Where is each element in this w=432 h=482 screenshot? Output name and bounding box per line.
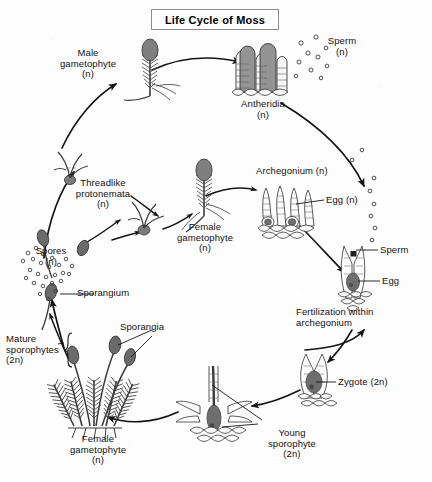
- label-zygote: Zygote (2n): [338, 377, 420, 388]
- label-spores: Spores (n): [24, 246, 78, 267]
- label-sperm-cloud: Sperm (n): [316, 36, 368, 57]
- label-male-gametophyte: Male gametophyte (n): [48, 48, 128, 80]
- label-archegonium: Archegonium (n): [256, 166, 366, 177]
- label-egg-n: Egg (n): [326, 195, 386, 206]
- label-egg: Egg: [382, 276, 426, 287]
- label-sperm: Sperm: [380, 245, 428, 256]
- label-female-gametophyte-center: Female gametophyte (n): [165, 222, 245, 254]
- label-antheridia: Antheridia (n): [228, 99, 298, 120]
- page-title: Life Cycle of Moss: [165, 14, 265, 26]
- label-young-sporophyte: Young sporophyte (2n): [256, 428, 328, 460]
- label-fertilization: Fertilization within archegonium: [296, 307, 412, 328]
- diagram-canvas: Life Cycle of Moss Male gametophyte (n) …: [0, 0, 432, 482]
- label-mature-sporophytes: Mature sporophytes (2n): [6, 334, 72, 366]
- label-sporangium: Sporangium: [77, 288, 151, 299]
- diagram-title-box: Life Cycle of Moss: [151, 9, 279, 30]
- label-sporangia: Sporangia: [120, 322, 184, 333]
- label-threadlike-protonemata: Threadlike protonemata (n): [62, 178, 144, 210]
- label-female-gametophyte-bottom: Female gametophyte (n): [56, 434, 140, 466]
